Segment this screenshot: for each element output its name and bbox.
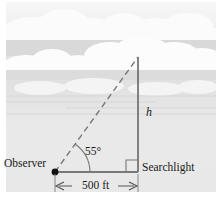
base-length-label: 500 ft	[82, 180, 109, 192]
searchlight-trigonometry-figure: Observer Searchlight 55° h 500 ft	[0, 0, 222, 202]
observer-label: Observer	[4, 158, 46, 170]
height-label: h	[146, 106, 152, 118]
searchlight-label: Searchlight	[142, 162, 194, 174]
angle-label: 55°	[85, 146, 101, 158]
right-angle-marker	[126, 160, 138, 172]
